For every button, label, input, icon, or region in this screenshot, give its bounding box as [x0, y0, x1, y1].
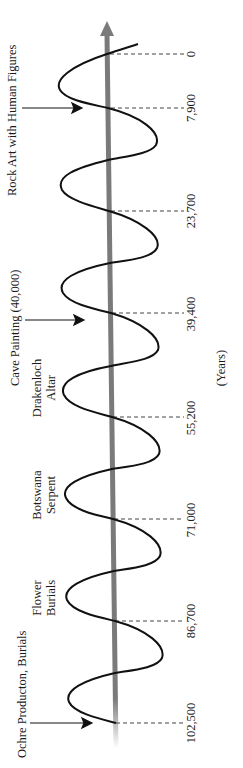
event-label-flower-burials: Flower Burials — [30, 573, 58, 623]
event-label-ochre-production: Ochre Producton, Burials — [15, 631, 29, 758]
tick-label-23700: 23,700 — [184, 181, 198, 241]
tick-label-71000: 71,000 — [184, 490, 198, 550]
event-label-line: Botswana — [30, 463, 44, 527]
tick-label-86700: 86,700 — [184, 591, 198, 651]
event-label-line: Serpent — [44, 463, 58, 527]
axis-label-years: (Years) — [214, 338, 228, 398]
event-label-line: Burials — [44, 573, 58, 623]
tick-label-55200: 55,200 — [184, 388, 198, 448]
tick-label-102500: 102,500 — [184, 693, 198, 753]
arrowhead-icon — [74, 315, 84, 325]
event-label-botswana-serpent: Botswana Serpent — [30, 463, 58, 527]
event-label-line: Drakenloch — [30, 355, 44, 421]
tick-label-39400: 39,400 — [184, 284, 198, 344]
event-label-rock-art: Rock Art with Human Figures — [5, 45, 19, 196]
event-label-cave-painting: Cave Painting (40,000) — [8, 270, 22, 386]
arrowhead-icon — [72, 103, 82, 113]
axis-arrowhead-icon — [100, 21, 114, 36]
timeline-diagram: Rock Art with Human Figures Cave Paintin… — [0, 0, 243, 768]
event-label-line: Altar — [44, 355, 58, 421]
time-axis — [107, 34, 116, 748]
event-label-line: Flower — [30, 573, 44, 623]
arrowhead-icon — [82, 718, 92, 728]
event-label-drakenloch-altar: Drakenloch Altar — [30, 355, 58, 421]
tick-label-0: 0 — [184, 24, 198, 84]
tick-label-7900: 7,900 — [184, 78, 198, 138]
